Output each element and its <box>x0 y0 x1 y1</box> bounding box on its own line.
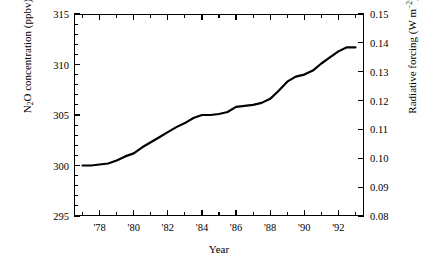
y-axis-left-title: N2O concentration (ppbv) <box>21 0 35 156</box>
axis-tick <box>287 212 288 216</box>
axis-tick <box>235 14 236 20</box>
axis-tick <box>358 129 364 130</box>
axis-tick <box>74 125 78 126</box>
axis-tick <box>99 210 100 216</box>
axis-tick <box>287 14 288 18</box>
axis-tick <box>150 14 151 18</box>
axis-tick-label: '78 <box>93 222 105 233</box>
axis-tick <box>270 210 271 216</box>
axis-tick-label: 0.09 <box>370 182 404 193</box>
axis-tick-label: 295 <box>41 211 69 222</box>
axis-tick <box>74 104 78 105</box>
y-right-title-post: ) <box>406 0 418 1</box>
axis-tick <box>99 14 100 20</box>
axis-tick <box>355 212 356 216</box>
axis-tick <box>82 212 83 216</box>
axis-tick <box>338 210 339 216</box>
axis-tick-label: 315 <box>41 9 69 20</box>
axis-tick-label: 0.10 <box>370 153 404 164</box>
axis-tick-label: 0.08 <box>370 211 404 222</box>
axis-tick <box>74 145 78 146</box>
axis-tick <box>321 212 322 216</box>
axis-tick <box>74 84 78 85</box>
axis-tick <box>218 14 219 18</box>
axis-tick <box>355 14 356 18</box>
axis-tick-label: 0.11 <box>370 124 404 135</box>
axis-tick <box>74 13 80 14</box>
axis-tick <box>74 54 78 55</box>
axis-tick-label: '84 <box>196 222 208 233</box>
axis-tick <box>358 215 364 216</box>
axis-tick-label: '86 <box>230 222 242 233</box>
axis-tick-label: 0.12 <box>370 95 404 106</box>
x-axis-title: Year <box>74 243 364 255</box>
axis-tick <box>74 215 80 216</box>
axis-tick <box>235 210 236 216</box>
axis-tick <box>150 212 151 216</box>
axis-tick <box>74 155 78 156</box>
axis-tick-label: '80 <box>128 222 140 233</box>
data-series-layer <box>74 14 364 216</box>
axis-tick <box>74 64 80 65</box>
axis-tick <box>74 34 78 35</box>
axis-tick <box>74 74 78 75</box>
axis-tick <box>116 212 117 216</box>
axis-tick-label: 310 <box>41 59 69 70</box>
axis-tick <box>184 14 185 18</box>
axis-tick-label: 0.15 <box>370 9 404 20</box>
axis-tick <box>74 44 78 45</box>
axis-tick-label: 0.13 <box>370 66 404 77</box>
y-left-title-pre: N <box>21 105 33 113</box>
axis-tick <box>321 14 322 18</box>
axis-tick <box>74 94 78 95</box>
axis-tick <box>74 165 80 166</box>
axis-tick <box>184 212 185 216</box>
axis-tick <box>82 14 83 18</box>
axis-tick <box>358 100 364 101</box>
line-series-n2o <box>83 47 356 165</box>
axis-tick <box>74 135 78 136</box>
axis-tick <box>201 14 202 20</box>
axis-tick <box>358 187 364 188</box>
axis-tick <box>74 175 78 176</box>
axis-tick <box>74 114 80 115</box>
y-right-title-pre: Radiative forcing (W m <box>406 9 418 114</box>
axis-tick <box>358 71 364 72</box>
axis-tick <box>116 14 117 18</box>
axis-tick-label: 300 <box>41 160 69 171</box>
axis-tick <box>74 185 78 186</box>
axis-tick-label: 305 <box>41 110 69 121</box>
axis-tick <box>74 24 78 25</box>
y-left-title-post: O concentration (ppbv) <box>21 0 33 101</box>
axis-tick <box>358 158 364 159</box>
axis-tick <box>133 14 134 20</box>
chart-container: '78'80'82'84'86'88'90'922953003053103150… <box>0 0 435 269</box>
axis-tick <box>74 195 78 196</box>
y-left-title-sub: 2 <box>26 101 35 105</box>
axis-tick <box>253 212 254 216</box>
axis-tick <box>358 13 364 14</box>
axis-tick-label: '82 <box>162 222 174 233</box>
axis-tick <box>304 210 305 216</box>
axis-tick <box>253 14 254 18</box>
axis-tick-label: '92 <box>332 222 344 233</box>
axis-tick <box>338 14 339 20</box>
axis-tick-label: '88 <box>264 222 276 233</box>
axis-tick <box>133 210 134 216</box>
y-right-title-sup: −2 <box>405 1 414 9</box>
axis-tick <box>304 14 305 20</box>
axis-tick <box>270 14 271 20</box>
axis-tick <box>358 42 364 43</box>
axis-tick <box>218 212 219 216</box>
y-axis-right-title: Radiative forcing (W m−2) <box>405 0 418 156</box>
axis-tick-label: 0.14 <box>370 37 404 48</box>
axis-tick <box>167 210 168 216</box>
axis-tick <box>167 14 168 20</box>
axis-tick-label: '90 <box>298 222 310 233</box>
axis-tick <box>201 210 202 216</box>
axis-tick <box>74 205 78 206</box>
